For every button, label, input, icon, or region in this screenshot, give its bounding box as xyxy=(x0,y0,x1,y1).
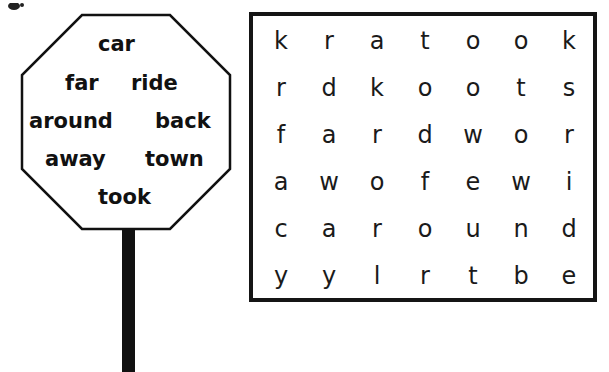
grid-row: fardwor xyxy=(253,112,593,158)
grid-row: yylrtbe xyxy=(253,253,593,299)
grid-letter[interactable]: n xyxy=(498,206,544,252)
grid-row: awofewi xyxy=(253,159,593,205)
word-bank-word: around xyxy=(29,111,113,132)
word-search-grid: kratookrdkootsfardworawofewicaroundyylrt… xyxy=(249,12,597,302)
grid-letter[interactable]: f xyxy=(258,112,304,158)
word-bank-word: back xyxy=(155,111,211,132)
grid-letter[interactable]: r xyxy=(258,65,304,111)
grid-letter[interactable]: y xyxy=(258,253,304,299)
grid-letter[interactable]: i xyxy=(546,159,592,205)
word-bank-word: ride xyxy=(131,73,178,94)
grid-letter[interactable]: t xyxy=(402,18,448,64)
grid-row: rdkoots xyxy=(253,65,593,111)
word-bank-word: away xyxy=(45,149,106,170)
grid-letter[interactable]: w xyxy=(498,159,544,205)
grid-letter[interactable]: r xyxy=(546,112,592,158)
grid-letter[interactable]: r xyxy=(354,112,400,158)
word-bank-word: took xyxy=(98,187,151,208)
corner-mark xyxy=(6,0,24,4)
grid-letter[interactable]: u xyxy=(450,206,496,252)
grid-letter[interactable]: r xyxy=(306,18,352,64)
grid-letter[interactable]: c xyxy=(258,206,304,252)
grid-letter[interactable]: d xyxy=(402,112,448,158)
grid-letter[interactable]: o xyxy=(402,65,448,111)
grid-letter[interactable]: a xyxy=(354,18,400,64)
grid-letter[interactable]: r xyxy=(354,206,400,252)
grid-letter[interactable]: e xyxy=(450,159,496,205)
grid-letter[interactable]: d xyxy=(546,206,592,252)
grid-letter[interactable]: y xyxy=(306,253,352,299)
grid-letter[interactable]: w xyxy=(450,112,496,158)
grid-letter[interactable]: l xyxy=(354,253,400,299)
grid-letter[interactable]: o xyxy=(498,18,544,64)
grid-letter[interactable]: f xyxy=(402,159,448,205)
grid-letter[interactable]: r xyxy=(402,253,448,299)
grid-letter[interactable]: o xyxy=(450,18,496,64)
grid-letter[interactable]: k xyxy=(258,18,304,64)
grid-letter[interactable]: b xyxy=(498,253,544,299)
grid-letter[interactable]: a xyxy=(258,159,304,205)
grid-letter[interactable]: d xyxy=(306,65,352,111)
word-bank-word: car xyxy=(98,34,135,55)
sign-pole xyxy=(122,229,135,372)
word-bank-list: carfarridearoundbackawaytowntook xyxy=(20,13,232,231)
grid-letter[interactable]: o xyxy=(498,112,544,158)
grid-letter[interactable]: t xyxy=(450,253,496,299)
grid-letter[interactable]: w xyxy=(306,159,352,205)
grid-letter[interactable]: k xyxy=(546,18,592,64)
grid-letter[interactable]: a xyxy=(306,206,352,252)
grid-letter[interactable]: o xyxy=(402,206,448,252)
grid-letter[interactable]: a xyxy=(306,112,352,158)
grid-letter[interactable]: k xyxy=(354,65,400,111)
grid-letter[interactable]: o xyxy=(450,65,496,111)
word-bank-word: town xyxy=(145,149,204,170)
word-bank-word: far xyxy=(65,73,99,94)
grid-letter[interactable]: t xyxy=(498,65,544,111)
grid-row: kratook xyxy=(253,18,593,64)
grid-row: caround xyxy=(253,206,593,252)
word-bank-sign: carfarridearoundbackawaytowntook xyxy=(20,13,232,231)
grid-letter[interactable]: s xyxy=(546,65,592,111)
grid-letter[interactable]: o xyxy=(354,159,400,205)
grid-letter[interactable]: e xyxy=(546,253,592,299)
